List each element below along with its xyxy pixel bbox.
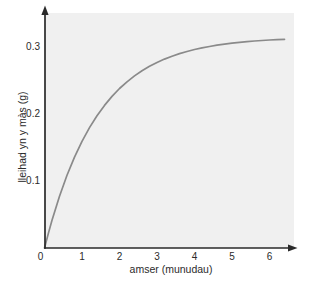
- x-tick-label: 5: [229, 252, 235, 262]
- x-tick-label: 6: [267, 252, 273, 262]
- x-tick-label: 0: [38, 252, 44, 262]
- y-tick-label: 0.3: [0, 42, 40, 52]
- plot-canvas: [0, 0, 311, 292]
- x-tick-label: 1: [79, 252, 85, 262]
- x-axis-title: amser (munudau): [130, 263, 213, 275]
- y-axis-title: lleihad yn y màs (g): [16, 91, 28, 182]
- line-chart: 0123456 0.10.20.3 amser (munudau) lleiha…: [0, 0, 311, 292]
- x-tick-label: 4: [192, 252, 198, 262]
- x-tick-label: 3: [154, 252, 160, 262]
- plot-area: [45, 13, 294, 248]
- x-tick-label: 2: [117, 252, 123, 262]
